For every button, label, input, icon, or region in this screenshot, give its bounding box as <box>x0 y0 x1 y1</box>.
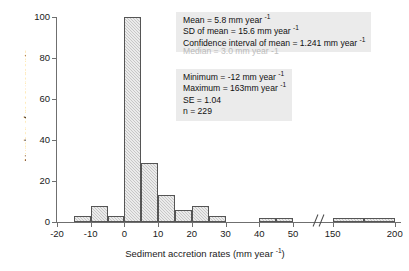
y-tick-label: 0 <box>45 217 50 227</box>
stat-maximum: Maximum = 163mm year -1 <box>183 83 286 94</box>
x-tick-mark <box>259 222 260 227</box>
x-axis-label: Sediment accretion rates (mm year -1) <box>55 248 355 259</box>
stat-n: n = 229 <box>183 106 286 117</box>
histogram-figure: Number of measurements 100806040200 -20-… <box>0 0 409 271</box>
y-axis-label-container: Number of measurements <box>0 0 26 240</box>
histogram-bar <box>124 17 141 222</box>
histogram-bar <box>364 218 395 222</box>
x-tick-mark <box>158 222 159 227</box>
x-tick-mark <box>226 222 227 227</box>
x-tick-mark <box>333 222 334 227</box>
x-tick-mark <box>57 222 58 227</box>
x-tick-mark <box>91 222 92 227</box>
stat-mean: Mean = 5.8 mm year -1 <box>183 15 365 26</box>
x-tick-mark <box>395 222 396 227</box>
histogram-bar <box>74 216 91 222</box>
stat-maximum-text: Maximum = 163mm year <box>183 83 280 93</box>
x-tick-label: 50 <box>288 229 299 239</box>
histogram-bar <box>259 218 276 222</box>
x-tick-label: 200 <box>387 229 403 239</box>
y-tick-label: 60 <box>39 94 50 104</box>
stat-mean-exponent: -1 <box>264 13 270 20</box>
x-tick-label: 20 <box>187 229 198 239</box>
x-axis-label-suffix: ) <box>282 248 285 259</box>
histogram-bar <box>192 206 209 222</box>
stat-ci-exponent: -1 <box>360 36 366 43</box>
stat-maximum-exponent: -1 <box>280 82 286 89</box>
histogram-bar <box>108 216 125 222</box>
histogram-bar <box>276 218 293 222</box>
x-axis-line <box>56 222 401 223</box>
stat-sd: SD of mean = 15.6 mm year -1 <box>183 26 365 37</box>
histogram-bar <box>175 210 192 222</box>
stat-mean-text: Mean = 5.8 mm year <box>183 15 264 25</box>
stat-sd-text: SD of mean = 15.6 mm year <box>183 26 293 36</box>
x-tick-mark <box>124 222 125 227</box>
y-tick-label: 80 <box>39 53 50 63</box>
x-tick-mark <box>192 222 193 227</box>
histogram-bar <box>333 218 364 222</box>
stat-minimum: Minimum = -12 mm year -1 <box>183 72 286 83</box>
x-tick-label: 0 <box>122 229 127 239</box>
y-tick-label: 20 <box>39 176 50 186</box>
x-tick-label: 30 <box>220 229 231 239</box>
x-tick-label: 40 <box>254 229 265 239</box>
stat-se: SE = 1.04 <box>183 95 286 106</box>
x-tick-label: -20 <box>50 229 64 239</box>
y-tick-label: 100 <box>34 12 50 22</box>
stat-minimum-text: Minimum = -12 mm year <box>183 72 278 82</box>
y-tick-label: 40 <box>39 135 50 145</box>
stat-sd-exponent: -1 <box>293 25 299 32</box>
stats-annotation-box-secondary: Minimum = -12 mm year -1 Maximum = 163mm… <box>176 69 292 121</box>
stats-annotation-box-primary: Mean = 5.8 mm year -1 SD of mean = 15.6 … <box>176 12 371 52</box>
x-tick-label: 150 <box>325 229 341 239</box>
x-tick-mark <box>293 222 294 227</box>
histogram-bar <box>91 206 108 222</box>
x-tick-label: -10 <box>84 229 98 239</box>
histogram-bar <box>209 216 226 222</box>
histogram-bar <box>141 163 158 222</box>
x-axis-label-text: Sediment accretion rates (mm year <box>125 248 275 259</box>
histogram-bar <box>158 195 175 222</box>
x-tick-label: 10 <box>153 229 164 239</box>
y-axis-label: Number of measurements <box>22 16 27 196</box>
stat-minimum-exponent: -1 <box>278 70 284 77</box>
